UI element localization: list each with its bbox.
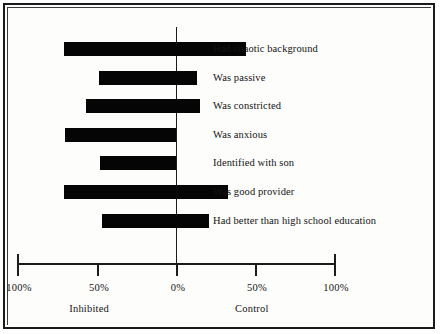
x-axis-tick <box>255 263 257 276</box>
x-axis-tick <box>334 254 336 276</box>
x-axis-tick-label: 0% <box>171 282 185 293</box>
x-axis-tick <box>17 254 19 276</box>
bar-category-label: Was constricted <box>213 100 281 112</box>
figure-frame: Had chaotic backgroundWas passiveWas con… <box>3 3 435 329</box>
chart-bar <box>65 128 176 142</box>
chart-bar <box>100 156 176 170</box>
chart-bar <box>64 185 228 199</box>
bar-category-label: Was passive <box>213 72 265 84</box>
bar-category-label: Had better than high school education <box>213 215 376 227</box>
zero-reference-line <box>176 27 177 275</box>
x-axis-tick <box>97 263 99 276</box>
x-axis-tick-label: 100% <box>6 282 31 293</box>
x-axis-tick <box>176 263 178 276</box>
bar-category-label: Was anxious <box>213 129 267 141</box>
bar-category-label: Was good provider <box>213 186 294 198</box>
chart-bar <box>102 214 209 228</box>
chart-bar <box>99 71 197 85</box>
x-axis-tick-label: 100% <box>323 282 348 293</box>
axis-group-label-control: Control <box>235 303 269 314</box>
x-axis-tick-label: 50% <box>89 282 109 293</box>
bar-category-label: Identified with son <box>213 157 294 169</box>
bar-category-label: Had chaotic background <box>213 43 318 55</box>
chart-bar <box>86 99 200 113</box>
chart-plot-area: Had chaotic backgroundWas passiveWas con… <box>5 5 437 331</box>
x-axis-tick-label: 50% <box>247 282 267 293</box>
axis-group-label-inhibited: Inhibited <box>69 303 109 314</box>
